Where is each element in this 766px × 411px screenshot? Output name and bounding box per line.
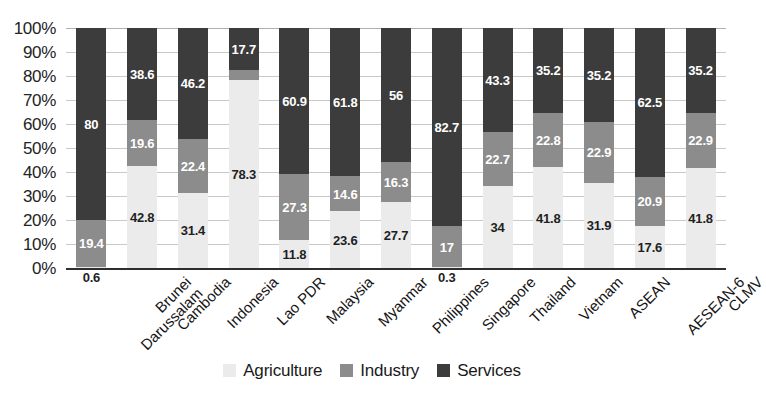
- bar-value-label: 35.2: [688, 64, 713, 77]
- legend-item[interactable]: Services: [437, 362, 521, 379]
- x-axis-category-line: Malaysia: [323, 273, 377, 327]
- bar-group[interactable]: 46.222.431.4: [168, 28, 219, 268]
- bar-segment-industry[interactable]: 14.6: [330, 176, 360, 211]
- bar-value-label: 80: [84, 118, 98, 131]
- bar-segment-industry[interactable]: 19.4: [76, 220, 106, 267]
- y-tick-label: 40%: [23, 164, 56, 181]
- bar-stack: 62.520.917.6: [635, 28, 665, 268]
- bar-stack: 60.927.311.8: [279, 28, 309, 268]
- bar-segment-agriculture[interactable]: 11.8: [279, 240, 309, 268]
- legend-swatch-services: [437, 364, 450, 377]
- bar-segment-agriculture[interactable]: 23.6: [330, 211, 360, 268]
- bar-segment-services[interactable]: 35.2: [686, 28, 716, 113]
- x-axis-category-label: Lao PDR: [274, 274, 328, 328]
- bar-stack: 46.222.431.4: [178, 28, 208, 268]
- bar-group[interactable]: 5616.327.7: [371, 28, 422, 268]
- bar-segment-services[interactable]: 35.2: [533, 28, 563, 113]
- bar-value-label: 34: [490, 221, 504, 234]
- bar-segment-agriculture[interactable]: 42.8: [127, 166, 157, 268]
- bar-group[interactable]: 35.222.941.8: [675, 28, 726, 268]
- bar-value-label: 56: [389, 89, 403, 102]
- x-axis-category-label: ASEAN: [626, 274, 673, 321]
- y-tick-label: 20%: [23, 212, 56, 229]
- bar-segment-services[interactable]: 35.2: [584, 28, 614, 122]
- bar-value-label: 41.8: [536, 212, 561, 225]
- x-axis-labels: BruneiDarussalamCambodiaIndonesiaLao PDR…: [66, 270, 726, 365]
- x-axis-category-line: Myanmar: [375, 273, 431, 329]
- legend-item[interactable]: Agriculture: [223, 362, 322, 379]
- bar-value-label: 31.4: [181, 224, 206, 237]
- bar-segment-services[interactable]: 56: [381, 28, 411, 162]
- bar-segment-agriculture[interactable]: 31.4: [178, 193, 208, 268]
- bar-segment-industry[interactable]: 19.6: [127, 120, 157, 167]
- bar-segment-services[interactable]: 80: [76, 28, 106, 220]
- bar-segment-industry[interactable]: 22.9: [686, 113, 716, 168]
- bar-group[interactable]: 35.222.841.8: [523, 28, 574, 268]
- bar-value-label: 14.6: [333, 188, 358, 201]
- bar-segment-industry[interactable]: 22.7: [483, 132, 513, 186]
- bar-segment-industry[interactable]: 27.3: [279, 174, 309, 240]
- plot-area: 8019.40.638.619.642.846.222.431.417.7478…: [66, 28, 726, 268]
- bar-value-label: 19.6: [130, 137, 155, 150]
- bar-segment-services[interactable]: 62.5: [635, 28, 665, 177]
- x-axis-category-label: Philippines: [429, 274, 492, 337]
- bar-group[interactable]: 82.7170.3: [421, 28, 472, 268]
- bar-group[interactable]: 8019.40.6: [66, 28, 117, 268]
- bar-group[interactable]: 62.520.917.6: [624, 28, 675, 268]
- bar-stack: 43.322.734: [483, 28, 513, 268]
- bar-group[interactable]: 60.927.311.8: [269, 28, 320, 268]
- bar-group[interactable]: 35.222.931.9: [574, 28, 625, 268]
- bar-segment-industry[interactable]: 17: [432, 226, 462, 267]
- bar-value-label: 82.7: [434, 121, 459, 134]
- legend-item[interactable]: Industry: [340, 362, 419, 379]
- bar-segment-agriculture[interactable]: 27.7: [381, 202, 411, 268]
- bar-segment-services[interactable]: 17.7: [229, 28, 259, 70]
- bar-segment-industry[interactable]: 16.3: [381, 162, 411, 201]
- bar-value-label: 22.8: [536, 134, 561, 147]
- bar-segment-agriculture[interactable]: 41.8: [533, 167, 563, 268]
- y-tick-label: 30%: [23, 188, 56, 205]
- bar-segment-agriculture[interactable]: 41.8: [686, 168, 716, 268]
- bar-value-label: 60.9: [282, 95, 307, 108]
- bar-value-label: 35.2: [536, 64, 561, 77]
- bar-value-label: 78.3: [231, 168, 256, 181]
- bar-value-label: 22.9: [587, 146, 612, 159]
- bar-value-label: 17.6: [638, 241, 663, 254]
- bar-value-label: 22.4: [181, 160, 206, 173]
- bar-segment-services[interactable]: 61.8: [330, 28, 360, 176]
- bar-segment-industry[interactable]: 20.9: [635, 177, 665, 227]
- bar-group[interactable]: 17.7478.3: [218, 28, 269, 268]
- y-tick-label: 10%: [23, 236, 56, 253]
- bar-stack: 61.814.623.6: [330, 28, 360, 268]
- bar-value-label: 38.6: [130, 68, 155, 81]
- bar-stack: 17.7478.3: [229, 28, 259, 268]
- x-axis-category-label: Indonesia: [224, 274, 281, 331]
- bar-stack: 8019.40.6: [76, 28, 106, 268]
- bar-segment-services[interactable]: 82.7: [432, 28, 462, 226]
- bar-group[interactable]: 38.619.642.8: [117, 28, 168, 268]
- bar-segment-industry[interactable]: 22.9: [584, 122, 614, 183]
- bar-group[interactable]: 43.322.734: [472, 28, 523, 268]
- bar-segment-services[interactable]: 46.2: [178, 28, 208, 139]
- bar-value-label: 23.6: [333, 234, 358, 247]
- bar-segment-agriculture[interactable]: 78.3: [229, 80, 259, 268]
- x-axis-category-label: Myanmar: [376, 274, 432, 330]
- bar-stack: 35.222.941.8: [686, 28, 716, 268]
- x-axis-category-label: Vietnam: [576, 274, 626, 324]
- bar-segment-agriculture[interactable]: 34: [483, 186, 513, 268]
- bar-group[interactable]: 61.814.623.6: [320, 28, 371, 268]
- bar-segment-industry[interactable]: 22.4: [178, 139, 208, 193]
- bar-value-label: 17.7: [231, 43, 256, 56]
- bar-segment-services[interactable]: 60.9: [279, 28, 309, 174]
- bar-value-label: 35.2: [587, 69, 612, 82]
- bar-value-label: 19.4: [79, 237, 104, 250]
- bar-segment-industry[interactable]: 22.8: [533, 113, 563, 168]
- bar-segment-agriculture[interactable]: 31.9: [584, 183, 614, 268]
- y-tick-label: 100%: [14, 20, 56, 37]
- bar-segment-services[interactable]: 38.6: [127, 28, 157, 120]
- bar-segment-agriculture[interactable]: 17.6: [635, 226, 665, 268]
- bar-segment-services[interactable]: 43.3: [483, 28, 513, 132]
- bars-layer: 8019.40.638.619.642.846.222.431.417.7478…: [66, 28, 726, 268]
- bar-segment-industry[interactable]: 4: [229, 70, 259, 80]
